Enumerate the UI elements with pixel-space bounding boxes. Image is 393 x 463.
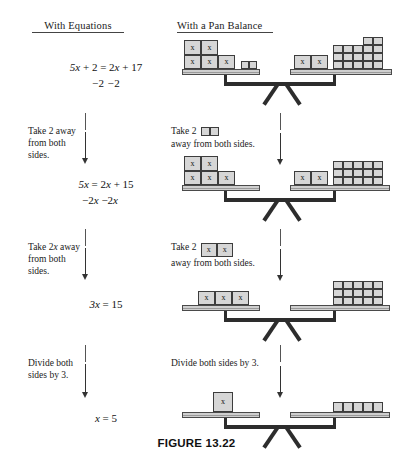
unit-cell bbox=[363, 161, 373, 169]
tray-left-4 bbox=[182, 412, 260, 418]
unit-cell bbox=[373, 289, 383, 297]
unit-cell bbox=[353, 61, 363, 69]
x-block: x bbox=[184, 55, 201, 69]
x-block: x bbox=[294, 55, 311, 69]
unit-cell bbox=[343, 61, 353, 69]
unit-cell bbox=[373, 297, 383, 305]
equation-step-4: x = 5 bbox=[32, 412, 180, 424]
stand-leg-right-3 bbox=[284, 319, 301, 342]
equation-step-1-operation: −2 −2 bbox=[32, 77, 180, 89]
unit-cell bbox=[343, 53, 353, 61]
x-block: x bbox=[184, 40, 201, 55]
x-block: x bbox=[184, 171, 201, 185]
equation-step-1: 5x + 2 = 2x + 17 bbox=[32, 61, 180, 73]
x-block: x bbox=[184, 156, 201, 171]
beam-3 bbox=[224, 318, 336, 322]
header-underline-equations bbox=[32, 32, 124, 33]
beam-1 bbox=[224, 82, 336, 86]
unit-cell bbox=[353, 297, 363, 305]
unit-cell bbox=[373, 177, 383, 185]
arrow-tick-pan-2 bbox=[280, 229, 281, 246]
unit-cell bbox=[363, 169, 373, 177]
unit-cell bbox=[373, 61, 383, 69]
x-block: x bbox=[198, 291, 215, 305]
unit-cell bbox=[363, 53, 373, 61]
note-equations-step-3: Take 2x away from both sides. bbox=[28, 241, 114, 278]
unit-cell bbox=[363, 37, 373, 45]
unit-block bbox=[241, 61, 249, 69]
beam-4 bbox=[224, 425, 336, 429]
unit-cell bbox=[353, 161, 363, 169]
unit-cell bbox=[343, 289, 353, 297]
x-block: x bbox=[201, 171, 218, 185]
unit-cell bbox=[353, 169, 363, 177]
column-header-pan-balance: With a Pan Balance bbox=[177, 20, 273, 33]
arrow-equations-step-3 bbox=[85, 248, 86, 274]
unit-cell bbox=[343, 169, 353, 177]
stand-leg-right-2 bbox=[284, 199, 301, 222]
unit-cell bbox=[353, 402, 363, 412]
unit-cell bbox=[363, 281, 373, 289]
arrow-pan-step-4 bbox=[280, 366, 281, 392]
inline-x-blocks-step-3: x x bbox=[201, 243, 233, 257]
arrow-tick-eq-2 bbox=[85, 229, 86, 246]
arrow-pan-step-2 bbox=[280, 133, 281, 159]
tray-left-2 bbox=[182, 185, 260, 191]
stand-leg-left-3 bbox=[262, 319, 279, 342]
unit-grid-right-1-extra bbox=[363, 37, 383, 69]
note-pan-step-3-prefix: Take 2 bbox=[171, 242, 196, 252]
unit-cell bbox=[373, 281, 383, 289]
unit-cell bbox=[363, 45, 373, 53]
unit-grid-right-2 bbox=[333, 161, 383, 185]
x-block: x bbox=[311, 55, 328, 69]
unit-cell bbox=[363, 289, 373, 297]
unit-cell bbox=[373, 37, 383, 45]
unit-cell bbox=[353, 177, 363, 185]
unit-grid-right-4 bbox=[333, 402, 383, 412]
arrow-equations-step-2 bbox=[85, 132, 86, 158]
note-pan-step-2: Take 2 away from both sides. bbox=[171, 125, 255, 150]
note-equations-step-4: Divide both sides by 3. bbox=[28, 357, 114, 381]
unit-cell bbox=[373, 53, 383, 61]
unit-cell bbox=[343, 161, 353, 169]
unit-cell bbox=[343, 177, 353, 185]
x-block: x bbox=[217, 243, 233, 257]
unit-cell bbox=[353, 289, 363, 297]
unit-grid-right-3 bbox=[333, 281, 383, 305]
tray-left-1 bbox=[182, 69, 260, 75]
x-block: x bbox=[218, 171, 235, 185]
figure-root: With Equations With a Pan Balance 5x + 2… bbox=[0, 0, 393, 463]
unit-cell bbox=[363, 177, 373, 185]
unit-cell bbox=[333, 161, 343, 169]
x-block: x bbox=[201, 156, 218, 171]
arrow-tick-eq-3 bbox=[85, 345, 86, 362]
x-block: x bbox=[294, 171, 311, 185]
unit-cell bbox=[333, 53, 343, 61]
tray-right-3 bbox=[290, 305, 390, 311]
stand-leg-left-1 bbox=[262, 83, 279, 106]
unit-cell bbox=[333, 289, 343, 297]
header-underline-pan-balance bbox=[177, 32, 273, 33]
unit-cell bbox=[373, 45, 383, 53]
unit-cell bbox=[333, 61, 343, 69]
arrow-tick-pan-3 bbox=[280, 345, 281, 362]
x-block: x bbox=[201, 243, 217, 257]
unit-cell bbox=[333, 45, 343, 53]
unit-cell bbox=[373, 161, 383, 169]
unit-cell bbox=[353, 45, 363, 53]
unit-cell bbox=[353, 281, 363, 289]
x-block: x bbox=[232, 291, 249, 305]
arrow-equations-step-4 bbox=[85, 364, 86, 392]
tray-right-2 bbox=[290, 185, 390, 191]
equation-step-3: 3x = 15 bbox=[32, 298, 180, 310]
x-block: x bbox=[218, 55, 235, 69]
note-pan-step-2-suffix: away from both sides. bbox=[171, 138, 255, 151]
note-pan-step-3: Take 2 x x away from both sides. bbox=[171, 241, 255, 270]
unit-cell bbox=[333, 169, 343, 177]
x-block: x bbox=[201, 40, 218, 55]
column-header-pan-balance-label: With a Pan Balance bbox=[177, 20, 262, 31]
tray-right-1 bbox=[290, 69, 392, 75]
unit-cell bbox=[343, 402, 353, 412]
x-block: x bbox=[215, 291, 232, 305]
equation-step-2: 5x = 2x + 15 bbox=[32, 178, 180, 190]
